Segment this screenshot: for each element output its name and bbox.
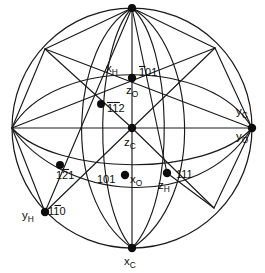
label-z-c: zC bbox=[124, 136, 136, 151]
pole-marker-center-zc[interactable] bbox=[128, 124, 136, 132]
pole-marker-xo-101[interactable] bbox=[121, 171, 129, 179]
label-y-o: yO bbox=[236, 130, 249, 145]
label-x-h-sub: H bbox=[112, 67, 118, 77]
label-z-h-sub: H bbox=[164, 184, 170, 194]
label-y-h: yH bbox=[22, 209, 34, 224]
miller-index-bar121-text: 121 bbox=[56, 169, 74, 181]
miller-index-plain111: 111 bbox=[176, 168, 193, 180]
zone-line-upper-left-rim-to-left bbox=[12, 49, 45, 128]
stereographic-projection-figure: xH zO zC yC yO xC xO zH yH 101 112 bbox=[0, 0, 265, 273]
miller-index-bar112: 112 bbox=[107, 102, 125, 114]
miller-index-plain101-text: 101 bbox=[97, 173, 115, 185]
label-y-c-sub: C bbox=[242, 110, 248, 120]
miller-index-plain101: 101 bbox=[97, 173, 115, 185]
miller-index-bar101-text: 101 bbox=[139, 66, 157, 78]
label-x-c: xC bbox=[124, 255, 136, 270]
label-z-o-sub: O bbox=[132, 89, 139, 99]
miller-index-plain111-text: 111 bbox=[176, 168, 193, 180]
pole-marker-zh-111[interactable] bbox=[163, 169, 171, 177]
label-y-o-sub: O bbox=[242, 135, 249, 145]
pole-marker-112[interactable] bbox=[97, 100, 105, 108]
label-z-h: zH bbox=[158, 179, 170, 194]
miller-index-bar121: 121 bbox=[56, 169, 74, 181]
miller-index-bar110: 110 bbox=[48, 205, 66, 217]
pole-marker-xh-zo[interactable] bbox=[128, 74, 136, 82]
miller-index-labels: 101 112 121 101 111 110 bbox=[48, 66, 193, 217]
pole-marker-top[interactable] bbox=[128, 4, 136, 12]
pole-marker-bottom-xc[interactable] bbox=[128, 244, 136, 252]
miller-index-bar110-text: 110 bbox=[48, 205, 66, 217]
label-x-c-sub: C bbox=[130, 260, 136, 270]
label-x-h: xH bbox=[106, 62, 118, 77]
projection-canvas: xH zO zC yC yO xC xO zH yH 101 112 bbox=[0, 0, 265, 273]
label-y-h-sub: H bbox=[28, 214, 34, 224]
miller-index-bar112-text: 112 bbox=[107, 102, 125, 114]
miller-index-bar101: 101 bbox=[139, 66, 157, 78]
pole-marker-121[interactable] bbox=[56, 161, 64, 169]
label-z-c-sub: C bbox=[130, 141, 136, 151]
zone-line-center-to-upper-left-rim bbox=[45, 49, 132, 128]
label-x-o-sub: O bbox=[136, 178, 143, 188]
zone-line-top-to-upper-right-rim bbox=[132, 8, 215, 48]
pole-marker-right-yc-yo[interactable] bbox=[248, 124, 256, 132]
